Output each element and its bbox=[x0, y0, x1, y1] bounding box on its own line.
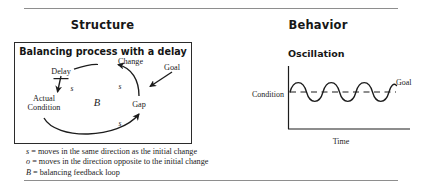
legend-text-s: = moves in the same direction as the ini… bbox=[29, 147, 197, 156]
chart-y-axis-label: Condition bbox=[252, 90, 284, 99]
legend-text-b: = balancing feedback loop bbox=[31, 168, 120, 177]
legend-item-o: o = moves in the direction opposite to t… bbox=[26, 157, 406, 167]
chart-x-axis-label: Time bbox=[333, 137, 350, 146]
legend: s = moves in the same direction as the i… bbox=[26, 147, 406, 178]
figure-container: Structure Behavior Balancing process wit… bbox=[0, 0, 421, 189]
legend-text-o: = moves in the direction opposite to the… bbox=[30, 157, 208, 166]
legend-item-s: s = moves in the same direction as the i… bbox=[26, 147, 406, 157]
legend-item-b: B = balancing feedback loop bbox=[26, 168, 406, 178]
chart-goal-label: Goal bbox=[396, 78, 412, 87]
